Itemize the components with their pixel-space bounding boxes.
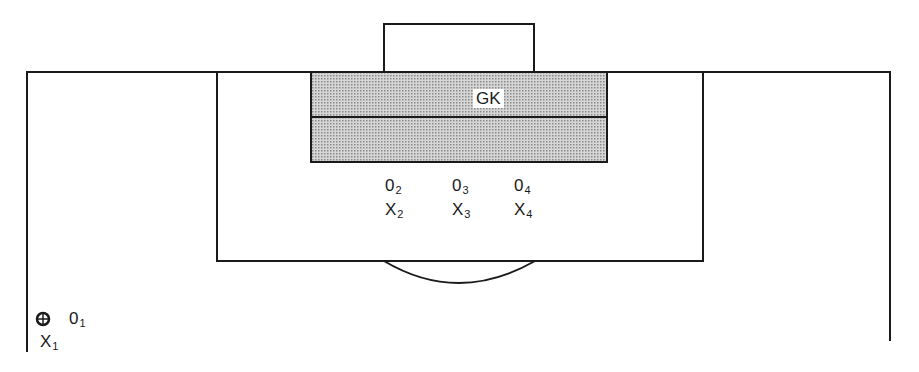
player-o3: 03	[452, 177, 469, 196]
player-x4: X4	[514, 201, 532, 220]
player-o1: 01	[69, 310, 86, 329]
player-o2: 02	[385, 177, 402, 196]
goalkeeper-label: GK	[473, 89, 504, 108]
soccer-ball-icon	[37, 313, 49, 325]
player-x1: X1	[40, 333, 58, 352]
penalty-arc	[384, 261, 535, 283]
goal	[384, 24, 534, 72]
player-x3: X3	[452, 201, 470, 220]
player-x2: X2	[385, 201, 403, 220]
player-o4: 04	[514, 177, 531, 196]
